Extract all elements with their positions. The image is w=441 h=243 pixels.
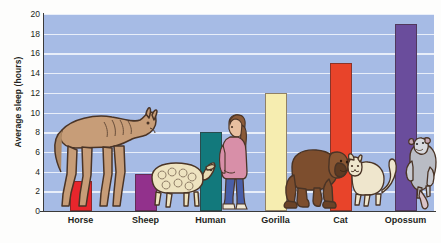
y-tick-label: 4 bbox=[18, 167, 40, 177]
bar-human bbox=[200, 132, 222, 211]
gridline bbox=[44, 14, 434, 15]
x-tick-label-human: Human bbox=[195, 215, 226, 225]
bar-gorilla bbox=[265, 93, 287, 211]
y-tick-label: 14 bbox=[18, 68, 40, 78]
x-axis-line bbox=[40, 211, 436, 212]
y-tick-label: 0 bbox=[18, 206, 40, 216]
y-tick-label: 2 bbox=[18, 186, 40, 196]
plot-area bbox=[44, 14, 434, 211]
y-tick-label: 12 bbox=[18, 88, 40, 98]
bar-opossum bbox=[395, 24, 417, 211]
x-tick-label-opossum: Opossum bbox=[385, 215, 427, 225]
x-tick-label-sheep: Sheep bbox=[132, 215, 159, 225]
gridline bbox=[44, 73, 434, 74]
bar-horse bbox=[70, 181, 92, 211]
gridline bbox=[44, 172, 434, 173]
bar-cat bbox=[330, 63, 352, 211]
x-tick-label-cat: Cat bbox=[333, 215, 348, 225]
y-tick-label: 18 bbox=[18, 29, 40, 39]
gridline bbox=[44, 93, 434, 94]
x-tick-label-gorilla: Gorilla bbox=[261, 215, 290, 225]
y-tick-label: 6 bbox=[18, 147, 40, 157]
bar-sheep bbox=[135, 174, 157, 211]
gridline bbox=[44, 191, 434, 192]
y-tick-label: 20 bbox=[18, 9, 40, 19]
sleep-chart-figure: Average sleep (hours) 02468101214161820 bbox=[0, 0, 441, 243]
gridline bbox=[44, 113, 434, 114]
x-tick-label-horse: Horse bbox=[68, 215, 94, 225]
gridline bbox=[44, 152, 434, 153]
gridline bbox=[44, 34, 434, 35]
gridline bbox=[44, 53, 434, 54]
y-axis-ticks: 02468101214161820 bbox=[14, 0, 40, 243]
gridline bbox=[44, 132, 434, 133]
y-tick-label: 10 bbox=[18, 108, 40, 118]
y-tick-label: 16 bbox=[18, 48, 40, 58]
y-tick-label: 8 bbox=[18, 127, 40, 137]
